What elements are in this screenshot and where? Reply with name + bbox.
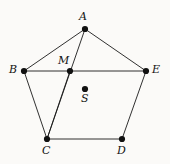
vertex-dots-group — [21, 26, 149, 142]
vertex-dot-c — [44, 136, 50, 142]
vertex-label-a: A — [79, 11, 87, 22]
vertex-label-e: E — [152, 64, 160, 75]
vertex-label-d: D — [117, 145, 126, 156]
pentagon-diagram-canvas — [0, 0, 170, 164]
vertex-label-s: S — [81, 93, 89, 104]
edge-A-B — [24, 29, 85, 71]
edge-E-D — [122, 71, 146, 139]
vertex-label-b: B — [9, 64, 17, 75]
vertex-label-m: M — [58, 55, 69, 66]
vertex-dot-a — [82, 26, 88, 32]
vertex-dot-e — [143, 68, 149, 74]
vertex-label-c: C — [42, 145, 50, 156]
edge-B-C — [24, 71, 47, 139]
geometry-figure: ABMESCD — [0, 0, 170, 164]
edge-M-C — [47, 71, 70, 139]
vertex-dot-b — [21, 68, 27, 74]
edge-A-E — [85, 29, 146, 71]
edges-group — [24, 29, 146, 139]
vertex-dot-m — [67, 68, 73, 74]
vertex-dot-d — [119, 136, 125, 142]
